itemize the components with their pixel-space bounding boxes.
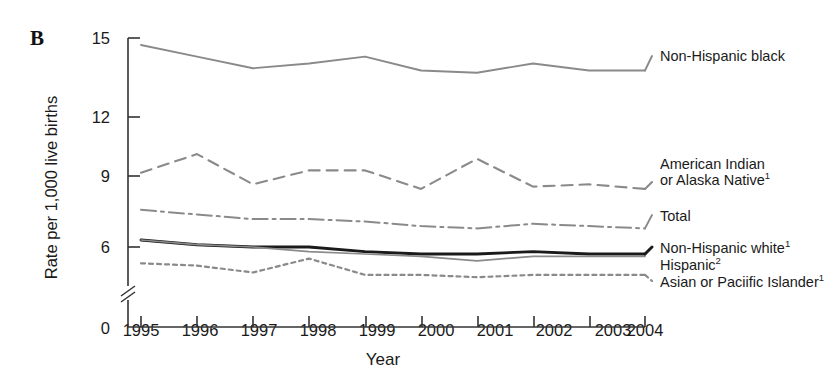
series-line-total	[141, 210, 645, 229]
data-series-layer	[141, 45, 645, 277]
series-line-hispanic	[141, 240, 645, 261]
legend-leader-non-hispanic-black	[645, 56, 652, 71]
legend-leader-non-hispanic-white	[645, 247, 652, 254]
legend-leader-asian-or-paciific-islander	[645, 275, 652, 281]
series-line-non-hispanic-black	[141, 45, 645, 73]
x-axis-ticks	[141, 316, 645, 327]
legend-leader-total	[645, 215, 652, 228]
axis-break-mark-1	[121, 286, 135, 296]
series-line-asian-or-paciific-islander	[141, 259, 645, 278]
figure-panel-b: B Rate per 1,000 live births 15 12 9 6 0…	[0, 0, 838, 383]
legend-leader-american-indian-or-alaska-native	[645, 182, 652, 189]
series-line-non-hispanic-white	[141, 240, 645, 254]
plot-area	[0, 0, 838, 383]
axis-lines	[121, 38, 645, 327]
legend-leader-lines	[645, 56, 652, 281]
series-line-american-indian-or-alaska-native	[141, 154, 645, 189]
y-axis-ticks	[128, 38, 140, 247]
